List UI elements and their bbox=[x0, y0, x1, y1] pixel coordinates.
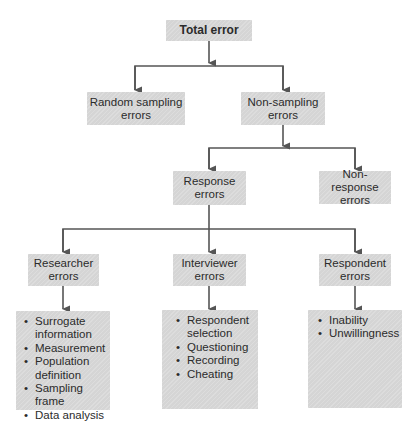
node-label-line2: errors bbox=[268, 109, 298, 121]
node-label: Researcher errors bbox=[34, 257, 93, 283]
list-interviewer-errors: Respondent selection Questioning Recordi… bbox=[162, 310, 258, 409]
node-label-line2: errors bbox=[48, 270, 78, 282]
node-label-line1: Response bbox=[184, 175, 236, 187]
node-random-sampling-errors: Random sampling errors bbox=[87, 92, 185, 125]
node-label-line1: Researcher bbox=[34, 257, 93, 269]
list-item: Cheating bbox=[176, 368, 254, 381]
list-item: Recording bbox=[176, 354, 254, 367]
list-item: Respondent selection bbox=[176, 314, 254, 341]
node-label: Random sampling errors bbox=[90, 96, 183, 122]
node-label: Total error bbox=[179, 24, 238, 37]
node-label-line1: Interviewer bbox=[181, 257, 237, 269]
node-total-error: Total error bbox=[166, 20, 252, 41]
node-respondent-errors: Respondent errors bbox=[319, 254, 391, 286]
node-label: Response errors bbox=[184, 175, 236, 201]
node-label-line1: Random sampling bbox=[90, 96, 183, 108]
node-label-line1: Respondent bbox=[324, 257, 386, 269]
node-label-line2: errors bbox=[121, 109, 151, 121]
list-item: Questioning bbox=[176, 341, 254, 354]
list-item: Sampling frame bbox=[24, 382, 106, 409]
node-interviewer-errors: Interviewer errors bbox=[173, 254, 246, 286]
node-label: Interviewer errors bbox=[181, 257, 237, 283]
node-non-sampling-errors: Non-sampling errors bbox=[241, 92, 325, 125]
node-researcher-errors: Researcher errors bbox=[28, 254, 99, 286]
node-response-errors: Response errors bbox=[173, 171, 246, 205]
list-item: Surrogate information bbox=[24, 315, 106, 342]
node-label: Non-sampling errors bbox=[248, 96, 319, 122]
node-label: Respondent errors bbox=[324, 257, 386, 283]
list-item: Data analysis bbox=[24, 409, 106, 422]
list-item: Measurement bbox=[24, 342, 106, 355]
node-label-line2: errors bbox=[340, 270, 370, 282]
node-label-line2: errors bbox=[340, 194, 370, 206]
node-label-line1: Non-sampling bbox=[248, 96, 319, 108]
list-item: Unwillingness bbox=[318, 327, 398, 340]
node-label-line2: errors bbox=[194, 188, 224, 200]
node-label-line1: Non-response bbox=[331, 168, 378, 193]
list-item: Inability bbox=[318, 314, 398, 327]
list-item: Population definition bbox=[24, 355, 106, 382]
list-researcher-errors: Surrogate information Measurement Popula… bbox=[16, 311, 110, 410]
node-label-line2: errors bbox=[194, 270, 224, 282]
node-non-response-errors: Non-response errors bbox=[319, 171, 391, 204]
list-respondent-errors: Inability Unwillingness bbox=[308, 310, 402, 408]
node-label: Non-response errors bbox=[319, 168, 391, 207]
